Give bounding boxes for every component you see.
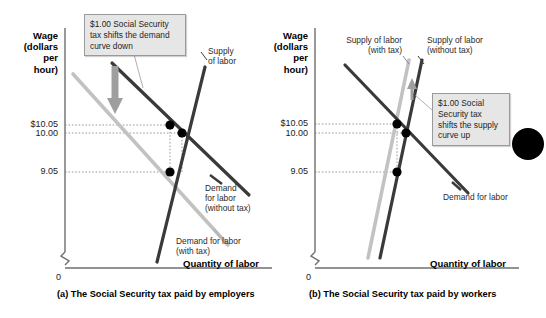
panel-a-supply-curve [157,67,205,262]
social-security-tax-figure: Wage (dollars per hour) $10.05 10.00 9.0… [0,0,546,318]
panel-a-demand-without-tax-label: Demand for labor (without tax) [205,184,251,214]
panel-b-caption: (b) The Social Security tax paid by work… [309,289,496,299]
panel-a-ytick-1000: 10.00 [12,128,58,139]
panel-a-point-905 [165,167,174,176]
edge-circle-artifact [512,128,544,160]
panel-a-demand-with-tax-label: Demand for labor (with tax) [176,237,241,257]
panel-b-point-1005 [392,119,401,128]
panel-b-ytick-1000: 10.00 [262,128,308,139]
panel-b-callout: $1.00 Social Security tax shifts the sup… [432,93,510,146]
panel-b-supply-with-tax-label: Supply of labor (with tax) [318,36,402,56]
panel-a-origin-label: 0 [56,272,61,283]
panel-a-supply-label-leader [201,52,207,60]
panel-b-y-axis-title: Wage (dollars per hour) [256,30,308,75]
panel-a-supply-label: Supply of labor [208,47,236,67]
panel-b-supply-without-tax-label: Supply of labor (without tax) [427,36,483,56]
panel-b-axes [311,28,519,268]
panel-a-axes [61,28,272,268]
panel-a-caption: (a) The Social Security tax paid by empl… [57,289,255,299]
panel-a-y-axis-title: Wage (dollars per hour) [6,30,58,75]
panel-b-origin-label: 0 [306,272,311,283]
panel-b-callout-leader [415,95,432,110]
panel-b-point-1000 [401,128,410,137]
panel-b-x-axis-title: Quantity of labor [430,258,506,269]
panel-b-point-905 [392,167,401,176]
panel-b-supply-without-tax-curve [380,60,422,258]
panel-a-ytick-905: 9.05 [12,166,58,177]
panel-b-ytick-905: 9.05 [262,166,308,177]
panel-b-demand-label: Demand for labor [443,193,508,203]
panel-b-supply-with-tax-curve [368,60,409,258]
panel-a-callout: $1.00 Social Security tax shifts the dem… [84,14,186,56]
panel-a-point-1005 [165,120,174,129]
panel-a-point-1000 [177,128,186,137]
panel-a-x-axis-title: Quantity of labor [183,258,259,269]
